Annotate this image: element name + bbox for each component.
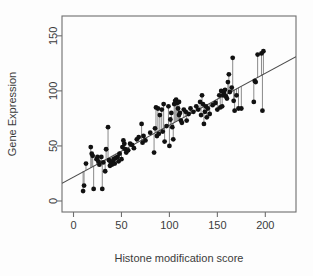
data-point bbox=[84, 161, 89, 166]
data-point bbox=[170, 125, 175, 130]
data-point bbox=[136, 135, 141, 140]
data-point bbox=[157, 113, 162, 118]
residual-lines bbox=[83, 51, 263, 191]
data-point bbox=[126, 148, 131, 153]
data-point bbox=[168, 117, 173, 122]
data-point bbox=[205, 106, 210, 111]
data-points bbox=[81, 49, 266, 194]
data-point bbox=[167, 144, 172, 149]
y-axis-title: Gene Expression bbox=[6, 72, 18, 156]
x-tick-label: 0 bbox=[70, 219, 76, 231]
data-point bbox=[139, 122, 144, 127]
x-axis: 050100150200 bbox=[70, 212, 274, 231]
data-point bbox=[177, 99, 182, 104]
scatter-plot-svg: 050100150050100150200Histone modificatio… bbox=[0, 0, 313, 276]
data-point bbox=[132, 146, 137, 151]
data-point bbox=[223, 87, 228, 92]
data-point bbox=[226, 80, 231, 85]
data-point bbox=[184, 118, 189, 123]
data-point bbox=[234, 93, 239, 98]
data-point bbox=[229, 85, 234, 90]
data-point bbox=[101, 160, 106, 165]
data-point bbox=[225, 96, 230, 101]
data-point bbox=[161, 102, 166, 107]
data-point bbox=[104, 147, 109, 152]
x-axis-title: Histone modification score bbox=[114, 252, 243, 264]
data-point bbox=[119, 157, 124, 162]
data-point bbox=[227, 90, 232, 95]
data-point bbox=[260, 108, 265, 113]
data-point bbox=[199, 113, 204, 118]
data-point bbox=[91, 186, 96, 191]
data-point bbox=[202, 122, 207, 127]
data-point bbox=[178, 110, 183, 115]
data-point bbox=[171, 137, 176, 142]
data-point bbox=[179, 120, 184, 125]
data-point bbox=[166, 104, 171, 109]
data-point bbox=[191, 109, 196, 114]
data-point bbox=[186, 112, 191, 117]
y-axis: 050100150 bbox=[47, 27, 62, 204]
data-point bbox=[103, 169, 108, 174]
data-point bbox=[153, 126, 158, 131]
x-tick-label: 50 bbox=[115, 219, 127, 231]
data-point bbox=[176, 106, 181, 111]
data-point bbox=[220, 104, 225, 109]
data-point bbox=[90, 153, 95, 158]
data-point bbox=[253, 80, 258, 85]
data-point bbox=[159, 107, 164, 112]
plot-panel bbox=[62, 49, 296, 194]
data-point bbox=[117, 151, 122, 156]
data-point bbox=[196, 107, 201, 112]
data-point bbox=[141, 134, 146, 139]
data-point bbox=[152, 150, 157, 155]
data-point bbox=[162, 139, 167, 144]
data-point bbox=[100, 186, 105, 191]
data-point bbox=[143, 138, 148, 143]
data-point bbox=[81, 189, 86, 194]
data-point bbox=[226, 72, 231, 77]
data-point bbox=[207, 112, 212, 117]
data-point bbox=[148, 130, 153, 135]
data-point bbox=[230, 55, 235, 60]
x-tick-label: 200 bbox=[256, 219, 274, 231]
data-point bbox=[106, 125, 111, 130]
data-point bbox=[251, 99, 256, 104]
y-tick-label: 150 bbox=[47, 27, 59, 45]
data-point bbox=[261, 49, 266, 54]
x-tick-label: 150 bbox=[208, 219, 226, 231]
data-point bbox=[164, 124, 169, 129]
data-point bbox=[82, 183, 87, 188]
data-point bbox=[122, 141, 127, 146]
data-point bbox=[200, 93, 205, 98]
data-point bbox=[88, 145, 93, 150]
y-tick-label: 50 bbox=[47, 140, 59, 152]
y-tick-label: 100 bbox=[47, 82, 59, 100]
y-tick-label: 0 bbox=[47, 198, 59, 204]
chart-container: 050100150050100150200Histone modificatio… bbox=[0, 0, 313, 276]
data-point bbox=[99, 155, 104, 160]
data-point bbox=[213, 101, 218, 106]
x-tick-label: 100 bbox=[160, 219, 178, 231]
data-point bbox=[231, 98, 236, 103]
data-point bbox=[169, 110, 174, 115]
data-point bbox=[239, 106, 244, 111]
data-point bbox=[160, 129, 165, 134]
